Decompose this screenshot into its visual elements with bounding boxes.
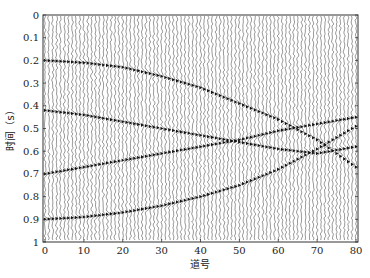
x-tick-label: 10 [78,245,91,256]
trace-wiggle [223,16,227,240]
trace-wiggle [125,16,129,240]
event-marker [273,169,276,173]
trace-wiggle [172,16,175,240]
x-tick-label: 80 [350,245,363,256]
y-tick-label: 0.8 [23,191,39,202]
y-tick-label: 0 [33,10,39,21]
x-tick-label: 50 [233,245,246,256]
x-tick-label: 60 [272,245,285,256]
trace-wiggle [98,16,102,240]
trace-wiggle [258,16,262,240]
event-marker [145,154,148,158]
trace-wiggle [90,16,93,240]
y-tick-label: 0.2 [23,55,39,66]
event-marker [304,124,307,128]
event-marker [223,138,226,142]
event-marker [277,147,280,151]
trace-wiggle [83,16,87,240]
x-tick-label: 20 [116,245,129,256]
trace-wiggle [238,16,242,240]
event-marker [351,146,354,150]
event-marker [195,146,198,150]
trace-wiggle [242,16,246,240]
wiggle-traces [44,16,358,240]
trace-wiggle [219,16,222,240]
y-tick-label: 0.4 [23,100,39,111]
event-marker [71,167,74,171]
x-axis-title: 道号 [190,258,210,270]
event-marker [94,214,97,218]
trace-wiggle [63,16,67,240]
trace-wiggle [133,16,137,240]
event-marker [207,89,210,93]
trace-wiggle [343,16,347,240]
trace-wiggle [234,16,239,240]
trace-wiggle [347,16,351,240]
trace-wiggle [137,16,140,240]
event-marker [211,136,214,140]
y-tick-label: 0.6 [23,146,39,157]
trace-wiggle [102,16,106,240]
x-tick-label: 0 [42,245,48,256]
trace-wiggle [55,16,59,240]
trace-wiggle [277,16,280,240]
trace-wiggle [75,16,79,240]
trace-wiggle [110,16,115,240]
trace-wiggle [312,16,315,240]
event-marker [55,110,58,114]
trace-wiggle [254,16,257,240]
y-tick-label: 0.1 [23,32,39,43]
trace-wiggle [67,16,71,240]
trace-wiggle [199,16,203,240]
event-marker [265,113,268,117]
y-tick-label: 1 [33,237,39,248]
trace-wiggle [195,16,199,240]
y-axis-title: 时间（s） [4,105,16,150]
x-tick-label: 40 [194,245,207,256]
trace-wiggle [192,16,196,240]
y-axis: 00.10.20.30.40.50.60.70.80.91 [23,10,358,248]
trace-wiggle [52,16,55,240]
event-marker [331,149,334,153]
trace-wiggle [129,16,133,240]
trace-wiggle [215,16,219,240]
trace-wiggle [316,16,320,240]
trace-wiggle [122,16,126,240]
trace-wiggle [262,16,266,240]
trace-wiggle [180,16,184,240]
event-marker [153,153,156,157]
trace-wiggle [269,16,273,240]
trace-wiggle [265,16,269,240]
trace-wiggle [188,16,191,240]
trace-wiggle [87,16,90,240]
trace-wiggle [94,16,98,240]
y-tick-label: 0.7 [23,168,39,179]
event-marker [199,86,202,90]
event-marker [304,150,307,154]
trace-wiggle [324,16,329,240]
seismic-section-chart: 00.10.20.30.40.50.60.70.80.91 0102030405… [0,0,370,278]
x-tick-label: 30 [155,245,168,256]
event-marker [262,133,265,137]
event-marker [258,144,261,148]
event-marker [141,70,144,74]
trace-wiggle [118,16,121,240]
trace-wiggle [203,16,206,240]
event-marker [122,120,125,124]
event-marker [289,124,292,128]
trace-wiggle [114,16,118,240]
event-marker [145,71,148,75]
event-marker [110,118,113,122]
trace-wiggle [281,16,285,240]
trace-wiggle [211,16,215,240]
event-marker [262,111,265,115]
trace-wiggle [145,16,149,240]
trace-wiggle [335,16,338,240]
trace-wiggle [273,16,277,240]
trace-wiggle [339,16,343,240]
event-marker [355,145,358,149]
trace-wiggle [184,16,187,240]
trace-wiggle [44,16,47,240]
trace-wiggle [304,16,308,240]
trace-wiggle [246,16,251,240]
